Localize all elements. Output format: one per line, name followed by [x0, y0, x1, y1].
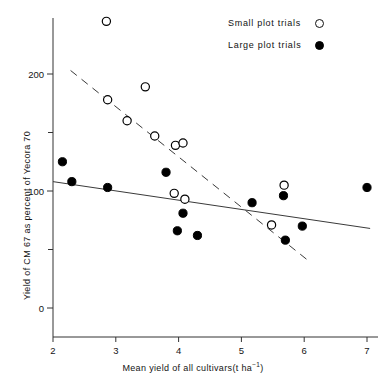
data-point: [162, 168, 170, 176]
svg-text:5: 5: [239, 345, 244, 356]
legend-item-large-plot: Large plot trials: [228, 40, 324, 50]
trend-lines: [53, 70, 370, 262]
data-point: [193, 231, 201, 239]
plot-canvas: 0100200 234567: [0, 0, 386, 385]
legend-item-small-plot: Small plot trials: [228, 18, 324, 28]
legend-label-small-plot: Small plot trials: [228, 18, 301, 28]
svg-text:3: 3: [113, 345, 118, 356]
data-point: [248, 199, 256, 207]
data-point: [104, 96, 112, 104]
data-point: [363, 183, 371, 191]
x-axis-title: Mean yield of all cultivars: [122, 363, 232, 373]
data-point: [141, 83, 149, 91]
y-axis-label: Yield of CM 67 as percent of Yecora 70: [22, 131, 32, 300]
data-point: [151, 132, 159, 140]
large-plot-trend: [53, 182, 370, 229]
legend-label-large-plot: Large plot trials: [228, 40, 301, 50]
svg-text:0: 0: [39, 303, 44, 314]
data-point: [298, 222, 306, 230]
filled-circle-icon: [315, 41, 324, 50]
data-point: [179, 139, 187, 147]
svg-text:4: 4: [176, 345, 181, 356]
x-axis-ticks: 234567: [50, 337, 369, 356]
data-point: [102, 17, 110, 25]
data-point: [173, 227, 181, 235]
scatter-plot-figure: 0100200 234567 Small plot trials Large p…: [0, 0, 386, 385]
svg-text:6: 6: [302, 345, 307, 356]
open-circle-icon: [315, 19, 324, 28]
data-point: [181, 195, 189, 203]
data-point: [280, 181, 288, 189]
series-large-plot-trials: [58, 158, 371, 245]
data-point: [179, 209, 187, 217]
svg-text:200: 200: [28, 69, 44, 80]
x-axis-label: Mean yield of all cultivars(t ha−1): [0, 361, 386, 373]
data-point: [170, 189, 178, 197]
x-axis-units-open: (t ha: [232, 363, 252, 373]
data-point: [281, 236, 289, 244]
data-point: [279, 192, 287, 200]
x-axis-units-close: ): [260, 363, 263, 373]
svg-text:7: 7: [364, 345, 369, 356]
data-point: [267, 221, 275, 229]
svg-text:2: 2: [50, 345, 55, 356]
data-point: [68, 178, 76, 186]
data-point: [58, 158, 66, 166]
data-point: [123, 117, 131, 125]
data-point: [104, 183, 112, 191]
